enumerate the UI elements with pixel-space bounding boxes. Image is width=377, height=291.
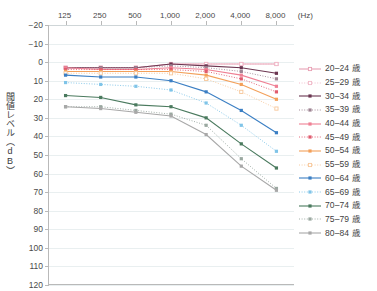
data-point [169, 79, 172, 82]
legend-item[interactable]: 55–59 歳 [299, 158, 377, 172]
series-line [66, 107, 277, 191]
legend-item[interactable]: 20–24 歳 [299, 62, 377, 76]
legend-item-label: 60–64 歳 [325, 174, 361, 183]
y-tick-label: 120 [17, 281, 43, 289]
data-point [240, 62, 243, 65]
y-tickmark [45, 285, 49, 286]
legend-item-label: 45–49 歳 [325, 133, 361, 142]
y-tick-label: 80 [17, 207, 43, 215]
x-tick-label: 1,000 [160, 12, 180, 20]
data-point [205, 133, 208, 136]
data-point [275, 131, 278, 134]
x-tick-label: 2,000 [195, 12, 215, 20]
series-line [66, 71, 277, 99]
data-point [240, 74, 243, 77]
data-point [64, 105, 67, 108]
legend-swatch-icon [299, 228, 321, 238]
legend-item[interactable]: 45–49 歳 [299, 130, 377, 144]
legend-swatch-icon [299, 64, 321, 74]
data-point [99, 107, 102, 110]
data-point [205, 101, 208, 104]
legend-item-label: 40–44 歳 [325, 119, 361, 128]
data-point [240, 66, 243, 69]
data-point [240, 77, 243, 80]
data-point [205, 70, 208, 73]
data-point [169, 114, 172, 117]
legend-item-label: 20–24 歳 [325, 64, 361, 73]
y-tick-label: 50 [17, 151, 43, 159]
data-point [240, 142, 243, 145]
data-point [64, 94, 67, 97]
legend-item[interactable]: 75–79 歳 [299, 213, 377, 227]
data-point [99, 96, 102, 99]
data-point [275, 72, 278, 75]
y-tick-label: 0 [17, 58, 43, 66]
legend-item[interactable]: 25–29 歳 [299, 76, 377, 90]
legend-swatch-icon [299, 201, 321, 211]
series-lines [49, 25, 295, 285]
legend-swatch-icon [299, 132, 321, 142]
y-tick-label: 40 [17, 132, 43, 140]
data-point [205, 77, 208, 80]
legend-item[interactable]: 30–34 歳 [299, 89, 377, 103]
data-point [275, 77, 278, 80]
data-point [134, 111, 137, 114]
data-point [240, 83, 243, 86]
legend-item-label: 50–54 歳 [325, 146, 361, 155]
data-point [240, 157, 243, 160]
data-point [205, 116, 208, 119]
x-tick-label: 8,000 [265, 12, 285, 20]
data-point [275, 107, 278, 110]
data-point [134, 85, 137, 88]
data-point [205, 124, 208, 127]
legend-item-label: 55–59 歳 [325, 160, 361, 169]
data-point [134, 72, 137, 75]
legend-swatch-icon [299, 173, 321, 183]
legend-swatch-icon [299, 214, 321, 224]
data-point [169, 105, 172, 108]
y-tick-label: 30 [17, 114, 43, 122]
audiogram-chart: 閾値レベル（dB） −20−10010203040506070809010011… [0, 0, 377, 291]
data-point [99, 72, 102, 75]
data-point [275, 98, 278, 101]
data-point [169, 72, 172, 75]
data-point [275, 62, 278, 65]
data-point [240, 70, 243, 73]
legend-item[interactable]: 40–44 歳 [299, 117, 377, 131]
data-point [99, 75, 102, 78]
legend-item[interactable]: 50–54 歳 [299, 144, 377, 158]
legend-swatch-icon [299, 119, 321, 129]
legend: 20–24 歳25–29 歳30–34 歳35–39 歳40–44 歳45–49… [299, 62, 377, 240]
legend-swatch-icon [299, 91, 321, 101]
legend-item-label: 65–69 歳 [325, 188, 361, 197]
legend-item-label: 70–74 歳 [325, 201, 361, 210]
data-point [275, 189, 278, 192]
data-point [205, 74, 208, 77]
y-axis-title: 閾値レベル（dB） [2, 92, 15, 175]
y-tick-label: 20 [17, 95, 43, 103]
legend-item[interactable]: 70–74 歳 [299, 199, 377, 213]
legend-swatch-icon [299, 187, 321, 197]
y-tick-label: 100 [17, 244, 43, 252]
legend-item-label: 35–39 歳 [325, 105, 361, 114]
y-tick-label: 70 [17, 188, 43, 196]
data-point [275, 85, 278, 88]
legend-item[interactable]: 80–84 歳 [299, 226, 377, 240]
x-tick-label: 4,000 [230, 12, 250, 20]
series-line [66, 75, 277, 133]
data-point [275, 150, 278, 153]
data-point [169, 88, 172, 91]
data-point [134, 103, 137, 106]
x-tick-label: 125 [58, 12, 71, 20]
y-tick-label: 110 [17, 262, 43, 270]
legend-item[interactable]: 35–39 歳 [299, 103, 377, 117]
y-tick-label: −10 [17, 40, 43, 48]
x-tick-label: 500 [128, 12, 141, 20]
series-line [66, 107, 277, 189]
data-point [240, 109, 243, 112]
legend-item[interactable]: 65–69 歳 [299, 185, 377, 199]
data-point [240, 90, 243, 93]
legend-item[interactable]: 60–64 歳 [299, 172, 377, 186]
legend-swatch-icon [299, 146, 321, 156]
data-point [275, 166, 278, 169]
